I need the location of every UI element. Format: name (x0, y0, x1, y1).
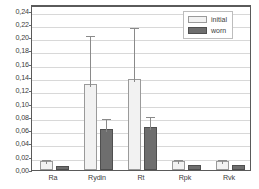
legend-item-worn: worn (188, 26, 227, 35)
bar-rt-worn (144, 127, 157, 170)
error-bar-cap (218, 160, 227, 161)
bar-rydin-initial (84, 84, 97, 170)
y-axis-tick-mark (29, 171, 32, 172)
error-bar-line (90, 36, 91, 88)
legend-item-initial: initial (188, 15, 227, 24)
bar-rvk-worn (232, 165, 245, 170)
x-axis-tick-label-rpk: Rpk (179, 173, 191, 182)
x-axis-tick-label-rvk: Rvk (223, 173, 235, 182)
bar-rt-initial (128, 79, 141, 170)
error-bar-cap (42, 160, 51, 161)
legend-swatch-initial (188, 16, 207, 23)
x-axis-tick-label-ra: Ra (49, 173, 58, 182)
error-bar-line (150, 117, 151, 130)
error-bar-cap (130, 28, 139, 29)
x-axis-tick-label-rt: Rt (138, 173, 145, 182)
bar-rpk-worn (188, 165, 201, 170)
bar-group (76, 7, 120, 170)
chart-legend: initial worn (183, 11, 233, 39)
legend-label-initial: initial (211, 16, 227, 24)
x-axis-tick-label-rydin: Rydin (88, 173, 106, 182)
y-axis-tick-marks (0, 5, 32, 171)
bar-group (120, 7, 164, 170)
error-bar-cap (146, 117, 155, 118)
error-bar-cap (102, 119, 111, 120)
bar-ra-worn (56, 166, 69, 170)
error-bar-cap (86, 36, 95, 37)
legend-swatch-worn (188, 27, 207, 34)
error-bar-line (134, 28, 135, 82)
error-bar-line (106, 119, 107, 132)
bar-group (32, 7, 76, 170)
error-bar-cap (174, 160, 183, 161)
x-axis-tick-labels: RaRydinRtRpkRvk (31, 173, 251, 187)
legend-label-worn: worn (211, 27, 226, 35)
bar-rydin-worn (100, 129, 113, 170)
bar-chart: 0,000,020,040,060,080,100,120,140,160,18… (0, 0, 259, 189)
